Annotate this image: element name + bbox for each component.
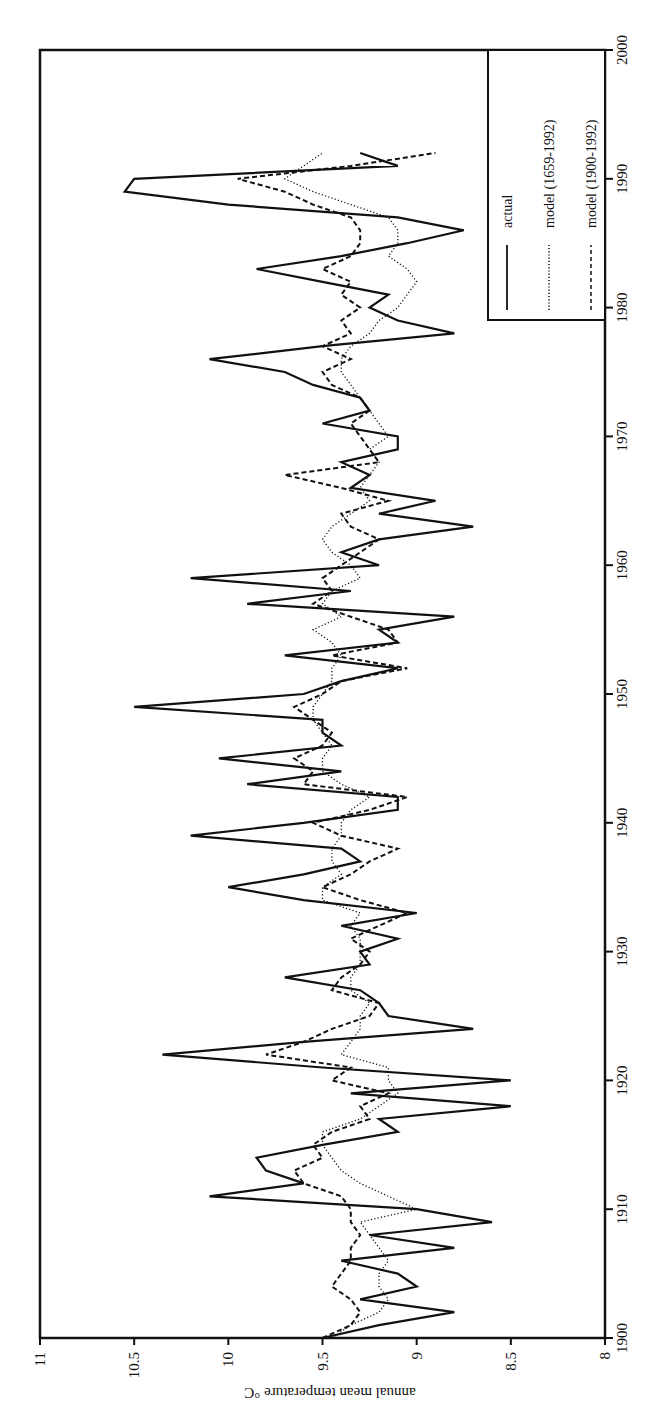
y-tick-label: 8 — [597, 1352, 613, 1360]
legend-label: model (1900-1992) — [584, 119, 600, 228]
x-tick-label: 1960 — [614, 550, 630, 580]
x-tick-label: 2000 — [614, 35, 630, 65]
x-tick-label: 1970 — [614, 421, 630, 451]
y-tick-label: 10 — [220, 1352, 236, 1367]
legend-label: model (1659-1992) — [542, 119, 558, 228]
x-tick-label: 1920 — [614, 1065, 630, 1095]
y-tick-label: 10.5 — [126, 1352, 142, 1378]
legend-label: actual — [500, 194, 515, 228]
y-axis-title: annual mean temperature °C — [244, 1385, 415, 1401]
x-tick-label: 1980 — [614, 293, 630, 323]
y-tick-label: 9.5 — [315, 1352, 331, 1371]
y-tick-label: 8.5 — [503, 1352, 519, 1371]
y-tick-label: 9 — [409, 1352, 425, 1360]
y-tick-label: 11 — [32, 1352, 48, 1366]
x-tick-label: 1950 — [614, 679, 630, 709]
x-tick-label: 1940 — [614, 808, 630, 838]
x-tick-label: 1990 — [614, 164, 630, 194]
series-line-model-1659-1992 — [285, 153, 417, 1338]
x-tick-label: 1900 — [614, 1323, 630, 1353]
temperature-chart: 1900191019201930194019501960197019801990… — [0, 0, 671, 1420]
x-tick-label: 1910 — [614, 1194, 630, 1224]
x-tick-label: 1930 — [614, 937, 630, 967]
